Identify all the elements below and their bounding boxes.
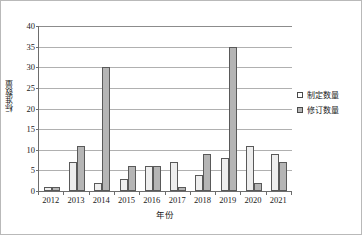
bar — [69, 162, 77, 191]
x-axis-tick-label: 2015 — [114, 195, 139, 205]
bar-group — [267, 26, 292, 191]
bar — [195, 175, 203, 192]
bar-group — [64, 26, 89, 191]
bar — [94, 183, 102, 191]
bar — [246, 146, 254, 191]
x-axis-tick-label: 2014 — [89, 195, 114, 205]
x-axis-tick-label: 2013 — [63, 195, 88, 205]
bar-group — [241, 26, 266, 191]
y-axis-tick-label: 0 — [31, 186, 35, 196]
bar-group — [115, 26, 140, 191]
x-axis-tick-label: 2019 — [215, 195, 240, 205]
x-axis-tick-label: 2017 — [164, 195, 189, 205]
bar-group — [39, 26, 64, 191]
y-axis-tick-label: 35 — [27, 42, 36, 52]
legend-label: 修订数量 — [307, 104, 339, 115]
x-axis-tick-label: 2012 — [38, 195, 63, 205]
bar — [271, 154, 279, 191]
bar — [120, 179, 128, 191]
bar — [77, 146, 85, 191]
bar — [221, 158, 229, 191]
bar — [178, 187, 186, 191]
plot-area: 0510152025303540 — [38, 26, 292, 192]
legend-swatch-icon — [297, 107, 303, 113]
bar — [203, 154, 211, 191]
y-axis-tick-label: 10 — [27, 145, 36, 155]
bar — [170, 162, 178, 191]
y-axis-tick-label: 30 — [27, 62, 36, 72]
bar-group — [165, 26, 190, 191]
x-axis-tick-label: 2021 — [266, 195, 291, 205]
bar-group — [140, 26, 165, 191]
bar — [145, 166, 153, 191]
bar-group — [216, 26, 241, 191]
bar-group — [90, 26, 115, 191]
legend-label: 制定数量 — [307, 89, 339, 100]
bar — [44, 187, 52, 191]
bar — [128, 166, 136, 191]
bar — [52, 187, 60, 191]
bar — [254, 183, 262, 191]
legend-swatch-icon — [297, 92, 303, 98]
y-axis-tick-label: 40 — [27, 21, 36, 31]
bar — [279, 162, 287, 191]
x-axis-tick-label: 2016 — [139, 195, 164, 205]
bar — [153, 166, 161, 191]
legend-item[interactable]: 制定数量 — [297, 89, 339, 100]
legend-item[interactable]: 修订数量 — [297, 104, 339, 115]
bar — [102, 67, 110, 191]
bar — [229, 47, 237, 191]
x-axis-tick-label: 2018 — [190, 195, 215, 205]
x-axis-title: 年份 — [38, 208, 291, 220]
y-axis-title: 标准数量 — [1, 1, 17, 191]
bar-groups — [39, 26, 292, 191]
bar-group — [191, 26, 216, 191]
y-axis-title-text: 标准数量 — [4, 80, 15, 112]
y-axis-tick-label: 5 — [31, 165, 35, 175]
x-axis-tick-labels: 2012201320142015201620172018201920202021 — [38, 195, 291, 205]
bar-chart-figure: 标准数量 0510152025303540 201220132014201520… — [0, 0, 362, 235]
x-axis-tick-mark — [291, 192, 292, 195]
x-axis-tick-label: 2020 — [240, 195, 265, 205]
y-axis-tick-label: 25 — [27, 83, 36, 93]
y-axis-tick-label: 15 — [27, 124, 36, 134]
chart-legend: 制定数量修订数量 — [297, 89, 339, 115]
y-axis-tick-label: 20 — [27, 104, 36, 114]
